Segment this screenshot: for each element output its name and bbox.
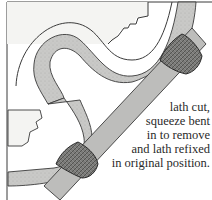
caption-line-5: in original position. [80, 156, 210, 170]
caption-line-1: lath cut, [80, 100, 210, 114]
cornice-inner-area [8, 110, 42, 146]
diagram-caption: lath cut, squeeze bent in to remove and … [80, 100, 210, 170]
caption-line-2: squeeze bent [80, 114, 210, 128]
caption-line-4: and lath refixed [80, 142, 210, 156]
caption-line-3: in to remove [80, 128, 210, 142]
cornice-squeeze-diagram: lath cut, squeeze bent in to remove and … [0, 0, 212, 200]
